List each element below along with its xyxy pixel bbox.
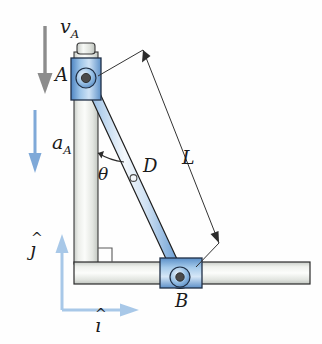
velocity-arrow-a <box>38 26 53 94</box>
collar-a <box>71 58 101 100</box>
label-point-d: D <box>143 157 157 175</box>
figure-canvas: vA aA A B D L θ ^ ȷ ^ ı <box>0 0 322 344</box>
label-point-a: A <box>55 66 68 84</box>
label-length-l: L <box>182 148 195 167</box>
label-unit-vector-j: ^ ȷ <box>30 240 36 259</box>
pin-a <box>81 73 90 82</box>
pin-b <box>176 273 184 281</box>
point-d-marker <box>130 175 137 182</box>
vertical-guide-cap <box>77 43 95 54</box>
label-angle-theta: θ <box>98 166 108 183</box>
i-hat-accent: ^ <box>95 307 107 321</box>
j-hat-accent: ^ <box>31 231 43 245</box>
collar-b <box>160 258 202 288</box>
right-angle-marker <box>98 248 112 262</box>
label-point-b: B <box>175 292 188 310</box>
label-velocity-a: vA <box>60 17 79 41</box>
label-unit-vector-i: ^ ı <box>95 316 101 335</box>
mechanism-svg <box>0 0 322 344</box>
label-acceleration-a: aA <box>52 133 72 157</box>
axis-j-arrow <box>56 234 69 310</box>
acceleration-arrow-a <box>29 110 42 173</box>
